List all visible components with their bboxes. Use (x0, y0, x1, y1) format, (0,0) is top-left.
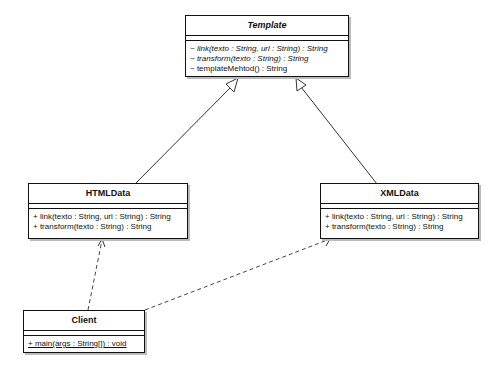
generalization-xmldata-template (296, 78, 377, 184)
operation-transform: ~ transform(texto : String) : String (190, 54, 344, 64)
class-template[interactable]: Template ~ link(texto : String, url : St… (185, 15, 349, 77)
operation-main: + main(args : String[]) : void (28, 339, 140, 349)
operation-template-method: ~ templateMehtod() : String (190, 64, 344, 74)
operation-transform: + transform(texto : String) : String (33, 222, 183, 232)
class-htmldata[interactable]: HTMLData + link(texto : String, url : St… (28, 183, 188, 239)
class-name: Client (24, 311, 144, 331)
class-name: HTMLData (29, 184, 187, 204)
operation-link: + link(texto : String, url : String) : S… (325, 212, 474, 222)
class-name: XMLData (321, 184, 478, 204)
class-client[interactable]: Client + main(args : String[]) : void (23, 310, 145, 353)
dependency-client-htmldata (88, 239, 105, 310)
operations-compartment: + main(args : String[]) : void (24, 336, 144, 352)
hollow-triangle-arrowhead-icon (296, 78, 306, 91)
class-xmldata[interactable]: XMLData + link(texto : String, url : Str… (320, 183, 479, 239)
class-name: Template (186, 16, 348, 36)
operations-compartment: ~ link(texto : String, url : String) : S… (186, 41, 348, 77)
open-arrowhead-icon (98, 239, 105, 247)
operation-link: ~ link(texto : String, url : String) : S… (190, 44, 344, 54)
dependency-client-xmldata (145, 239, 330, 310)
operations-compartment: + link(texto : String, url : String) : S… (321, 209, 478, 235)
open-arrowhead-icon (322, 239, 330, 246)
operations-compartment: + link(texto : String, url : String) : S… (29, 209, 187, 235)
operation-transform: + transform(texto : String) : String (325, 222, 474, 232)
generalization-htmldata-template (135, 78, 238, 184)
operation-link: + link(texto : String, url : String) : S… (33, 212, 183, 222)
